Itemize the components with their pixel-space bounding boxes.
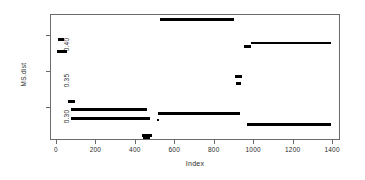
data-band (157, 119, 160, 122)
x-axis-tick (332, 140, 333, 144)
data-band (158, 112, 241, 115)
x-tick-label: 800 (200, 146, 228, 153)
x-tick-label: 400 (121, 146, 149, 153)
x-tick-label: 1200 (279, 146, 307, 153)
data-band (68, 100, 75, 103)
x-axis-tick (135, 140, 136, 144)
x-tick-label: 0 (42, 146, 70, 153)
x-axis-title: Index (50, 160, 340, 167)
data-band (71, 108, 147, 111)
data-band (160, 18, 235, 21)
data-band (235, 75, 242, 78)
data-points-layer (51, 15, 339, 139)
x-axis-tick (174, 140, 175, 144)
plot-frame (50, 14, 340, 140)
data-band (247, 123, 331, 126)
x-axis-tick (253, 140, 254, 144)
data-band (143, 137, 149, 139)
x-axis-tick (56, 140, 57, 144)
plot-canvas: MS.dist 0.40 0.35 0.30 0 200 400 600 800… (0, 0, 365, 180)
x-tick-label: 1000 (239, 146, 267, 153)
data-band (71, 117, 150, 120)
x-axis-tick (95, 140, 96, 144)
x-tick-label: 600 (160, 146, 188, 153)
x-axis-tick (214, 140, 215, 144)
y-axis-title: MS.dist (20, 60, 27, 90)
data-band (251, 42, 331, 45)
data-band (244, 45, 251, 48)
x-tick-label: 200 (81, 146, 109, 153)
x-axis-tick (293, 140, 294, 144)
data-band (236, 82, 241, 85)
data-band (58, 38, 64, 41)
data-band (57, 50, 67, 53)
x-tick-label: 1400 (318, 146, 346, 153)
